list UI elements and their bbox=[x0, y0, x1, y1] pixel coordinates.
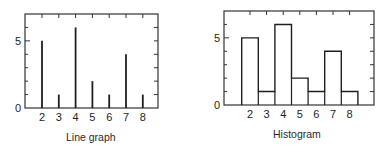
x-tick-label: 2 bbox=[247, 108, 253, 120]
x-tick-label: 4 bbox=[280, 108, 286, 120]
x-tick-label: 7 bbox=[330, 108, 336, 120]
x-tick-label: 5 bbox=[297, 108, 303, 120]
line-graph-caption: Line graph bbox=[66, 131, 116, 143]
histogram-caption: Histogram bbox=[273, 128, 321, 140]
y-tick-label: 0 bbox=[214, 99, 220, 111]
histogram-chart: 052345678 bbox=[0, 0, 387, 150]
x-tick-label: 3 bbox=[264, 108, 270, 120]
histogram-outline bbox=[242, 24, 358, 105]
x-tick-label: 8 bbox=[347, 108, 353, 120]
y-tick-label: 5 bbox=[214, 32, 220, 44]
x-tick-label: 6 bbox=[313, 108, 319, 120]
